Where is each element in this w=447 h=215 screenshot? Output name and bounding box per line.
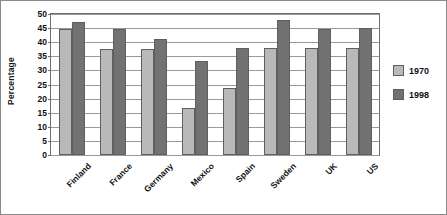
bar-finland-1970[interactable] [59,29,72,155]
y-tick-label: 0 [42,150,47,160]
y-tick-mark [48,155,51,156]
legend-item-1970[interactable]: 1970 [393,65,429,76]
bar-spain-1998[interactable] [236,48,249,155]
y-axis-title-text: Percentage [6,57,16,105]
bar-group [100,14,126,155]
x-axis-label-germany: Germany [141,161,174,194]
bar-group [223,14,249,155]
bar-group [59,14,85,155]
y-tick-label: 5 [42,136,47,146]
y-tick-label: 45 [38,23,47,33]
bar-us-1998[interactable] [359,28,372,155]
y-tick-label: 25 [38,80,47,90]
bar-mexico-1998[interactable] [195,61,208,155]
legend-swatch-1998 [393,89,404,100]
legend-swatch-1970 [393,65,404,76]
y-tick-label: 15 [38,108,47,118]
y-axis-title: Percentage [3,1,19,161]
bar-sweden-1970[interactable] [264,48,277,155]
bar-sweden-1998[interactable] [277,20,290,155]
y-tick-label: 35 [38,51,47,61]
y-tick-label: 10 [38,122,47,132]
bar-group [264,14,290,155]
legend-item-1998[interactable]: 1998 [393,89,429,100]
bar-mexico-1970[interactable] [182,108,195,155]
x-axis-label-france: France [107,161,134,188]
y-tick-label: 20 [38,94,47,104]
x-axis-label-spain: Spain [233,161,256,184]
plot-area: 05101520253035404550 [50,13,380,156]
x-axis-label-finland: Finland [64,161,92,189]
bar-group [346,14,372,155]
legend-label-1998: 1998 [409,90,429,100]
bar-group [182,14,208,155]
bar-germany-1970[interactable] [141,49,154,155]
bar-france-1998[interactable] [113,29,126,155]
bar-france-1970[interactable] [100,49,113,155]
gridline [51,155,379,156]
category-axis: FinlandFranceGermanyMexicoSpainSwedenUKU… [50,157,380,215]
bar-germany-1998[interactable] [154,39,167,155]
bar-us-1970[interactable] [346,48,359,155]
bar-finland-1998[interactable] [72,22,85,155]
y-tick-label: 30 [38,65,47,75]
y-tick-label: 50 [38,9,47,19]
bars-layer [51,14,379,155]
x-axis-label-sweden: Sweden [268,161,298,191]
y-tick-label: 40 [38,37,47,47]
chart-legend: 19701998 [393,65,429,100]
bar-uk-1970[interactable] [305,48,318,155]
legend-label-1970: 1970 [409,66,429,76]
bar-spain-1970[interactable] [223,88,236,155]
x-axis-label-mexico: Mexico [188,161,215,188]
bar-uk-1998[interactable] [318,29,331,155]
bar-group [305,14,331,155]
bar-chart-figure: Percentage 05101520253035404550 FinlandF… [0,0,447,215]
bar-group [141,14,167,155]
x-axis-label-uk: UK [323,161,339,177]
x-axis-label-us: US [364,161,379,176]
